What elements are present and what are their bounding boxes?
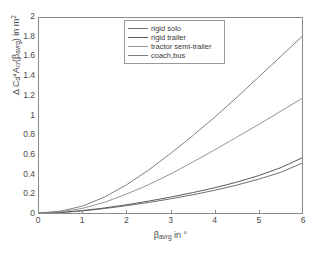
y-beta-symbol: β bbox=[11, 54, 21, 59]
legend-item[interactable]: coach,bus bbox=[127, 51, 221, 60]
y-c-subscript: d bbox=[15, 77, 22, 81]
legend-item-label: rigid solo bbox=[151, 24, 181, 33]
legend-item[interactable]: tractor semi-trailer bbox=[127, 42, 221, 51]
x-tick-mark bbox=[126, 210, 127, 214]
y-close-paren: ) bbox=[11, 38, 21, 41]
y-tick-label: 0.4 bbox=[0, 170, 35, 179]
x-axis-title: βavrg in ° bbox=[38, 230, 303, 240]
legend-item[interactable]: rigid trailer bbox=[127, 33, 221, 42]
x-beta-subscript: avrg bbox=[159, 233, 172, 240]
series-line-2 bbox=[39, 98, 302, 213]
x-tick-label: 3 bbox=[159, 216, 183, 225]
x-tick-label: 1 bbox=[70, 216, 94, 225]
x-tick-label: 5 bbox=[247, 216, 271, 225]
series-line-0 bbox=[39, 163, 302, 213]
x-tick-label: 2 bbox=[114, 216, 138, 225]
legend-item[interactable]: rigid solo bbox=[127, 24, 221, 33]
legend-item-label: coach,bus bbox=[151, 51, 185, 60]
y-a-subscript: cr bbox=[15, 62, 22, 67]
legend: rigid solorigid trailertractor semi-trai… bbox=[124, 20, 225, 64]
x-tick-mark bbox=[215, 210, 216, 214]
y-tick-label: 0.6 bbox=[0, 150, 35, 159]
y-open-paren: ( bbox=[11, 59, 21, 62]
x-tick-mark bbox=[259, 210, 260, 214]
x-tick-mark bbox=[82, 210, 83, 214]
series-line-1 bbox=[39, 158, 302, 213]
y-beta-subscript: avrg bbox=[15, 41, 22, 54]
x-tick-label: 6 bbox=[291, 216, 315, 225]
legend-line-swatch bbox=[128, 28, 148, 29]
x-tick-label: 0 bbox=[26, 216, 50, 225]
y-delta-symbol: Δ bbox=[11, 89, 21, 95]
legend-line-swatch bbox=[128, 46, 148, 47]
x-units-text: in ° bbox=[174, 230, 187, 240]
legend-item-label: tractor semi-trailer bbox=[151, 42, 211, 51]
chart-figure: 00.20.40.60.811.21.41.61.82 Δ Cd*Acr(βav… bbox=[0, 0, 318, 257]
legend-line-swatch bbox=[128, 55, 148, 56]
y-units-exponent: 2 bbox=[10, 15, 17, 19]
x-tick-mark bbox=[171, 210, 172, 214]
legend-line-swatch bbox=[128, 37, 148, 38]
y-c-symbol: C bbox=[11, 80, 21, 87]
y-axis-title: Δ Cd*Acr(βavrg) in m2 bbox=[9, 0, 23, 135]
legend-item-label: rigid trailer bbox=[151, 33, 186, 42]
y-units-text: in m bbox=[11, 19, 21, 36]
y-a-symbol: A bbox=[11, 67, 21, 73]
y-star-symbol: * bbox=[11, 73, 21, 77]
y-tick-label: 0.2 bbox=[0, 189, 35, 198]
x-tick-label: 4 bbox=[203, 216, 227, 225]
y-axis-title-text: Δ Cd*Acr(βavrg) in m2 bbox=[10, 15, 21, 95]
